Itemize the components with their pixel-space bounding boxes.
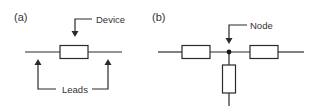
resistor-left [182,46,210,59]
device-label: Device [96,14,125,25]
leads-label: Leads [62,84,88,95]
leads-right-arrow-icon [92,59,112,89]
resistor-right [250,46,278,59]
resistor-bottom [223,65,236,93]
panel-b: (b) Node [152,11,304,106]
panel-a: (a) Device Leads [14,11,125,95]
node-arrow-icon [226,25,248,44]
leads-left-arrow-icon [35,59,57,89]
panel-b-label: (b) [152,11,165,23]
circuit-diagram: (a) Device Leads (b) Node [0,0,317,109]
node-dot-icon [227,50,232,55]
device-arrow-icon [72,19,93,37]
device-resistor [60,46,88,59]
panel-a-label: (a) [14,11,27,23]
node-label: Node [250,20,273,31]
